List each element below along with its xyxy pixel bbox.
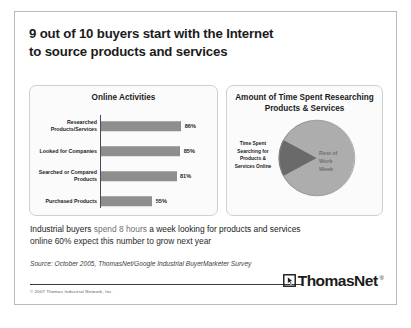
summary-segment-rest: a week looking for products and services	[147, 224, 301, 234]
bar-value-label: 55%	[156, 198, 167, 204]
bar-category-line: Products	[74, 198, 97, 204]
bar-value-label: 86%	[185, 123, 196, 129]
source-citation: Source: October 2005, ThomasNet/Google I…	[30, 260, 251, 267]
pie-label-line: Products &	[229, 155, 277, 163]
bar-category-label: Purchased Products	[38, 198, 97, 205]
bar-category-line: Products/Services	[51, 126, 97, 132]
logo-wordmark: ThomasNet	[298, 273, 378, 289]
headline-line-2: to source products and services	[29, 43, 379, 61]
thomasnet-logo: ThomasNet ®	[283, 273, 384, 289]
cursor-square-icon	[283, 274, 296, 287]
bar-chart-title: Online Activities	[30, 93, 217, 104]
bar-row: Purchased Products 55%	[38, 190, 211, 212]
pie-label-rest-of-work-week: Rest of Work Week	[319, 150, 359, 173]
bar-fill	[101, 171, 177, 181]
summary-line-2: online 60% expect this number to grow ne…	[30, 236, 382, 248]
bar-chart-plot: Researched Products/Services 86% Looked …	[38, 113, 211, 209]
pie-chart-plot: Time Spent Searching for Products & Serv…	[227, 110, 382, 213]
bar-category-label: Searched or Compared Products	[38, 169, 97, 183]
bar-row: Searched or Compared Products 81%	[38, 165, 211, 187]
pie-label-line: Searching for	[229, 148, 277, 156]
bar-category-line: Researched	[67, 119, 97, 125]
summary-line-1: Industrial buyers spend 8 hours a week l…	[30, 224, 382, 236]
bar-track: 85%	[101, 140, 211, 162]
bar-row: Researched Products/Services 86%	[38, 115, 211, 137]
pie-label-line: Services Online	[229, 163, 277, 171]
bar-track: 81%	[101, 165, 211, 187]
summary-segment-muted: spend 8 hours	[94, 224, 147, 234]
pie-label-time-spent: Time Spent Searching for Products & Serv…	[229, 140, 277, 170]
time-spent-chart-panel: Amount of Time Spent Researching Product…	[226, 85, 383, 216]
bar-row: Looked for Companies 85%	[38, 140, 211, 162]
pie-label-line: Time Spent	[229, 140, 277, 148]
bar-category-label: Researched Products/Services	[38, 119, 97, 133]
bar-value-label: 81%	[180, 173, 191, 179]
bar-category-line: Compared	[71, 169, 97, 175]
bar-value-label: 85%	[184, 148, 195, 154]
pie-label-line: Week	[319, 166, 359, 174]
pie-title-line: Amount of Time Spent Researching	[227, 93, 382, 104]
bar-category-line: Products	[74, 176, 97, 182]
summary-text: Industrial buyers spend 8 hours a week l…	[30, 224, 382, 248]
summary-segment-strong: Industrial buyers	[30, 224, 94, 234]
headline-line-1: 9 out of 10 buyers start with the Intern…	[29, 25, 379, 43]
bar-category-line: Looked for	[40, 148, 67, 154]
page-title: 9 out of 10 buyers start with the Intern…	[29, 25, 379, 61]
bar-track: 55%	[101, 190, 211, 212]
bar-category-label: Looked for Companies	[38, 148, 97, 155]
bar-fill	[101, 146, 180, 156]
bar-track: 86%	[101, 115, 211, 137]
bar-category-line: Searched or	[39, 169, 70, 175]
bar-category-line: Companies	[68, 148, 97, 154]
copyright-text: © 2007 Thomas Industrial Network, Inc.	[30, 289, 113, 294]
slide-frame: 9 out of 10 buyers start with the Intern…	[14, 11, 397, 305]
pie-label-line: Work	[319, 158, 359, 166]
pie-label-line: Rest of	[319, 150, 359, 158]
bar-category-line: Purchased	[45, 198, 72, 204]
bar-fill	[101, 196, 152, 206]
footer-divider	[30, 284, 303, 285]
registered-mark: ®	[380, 275, 384, 281]
bar-fill	[101, 121, 181, 131]
online-activities-chart-panel: Online Activities Researched Products/Se…	[29, 85, 218, 216]
